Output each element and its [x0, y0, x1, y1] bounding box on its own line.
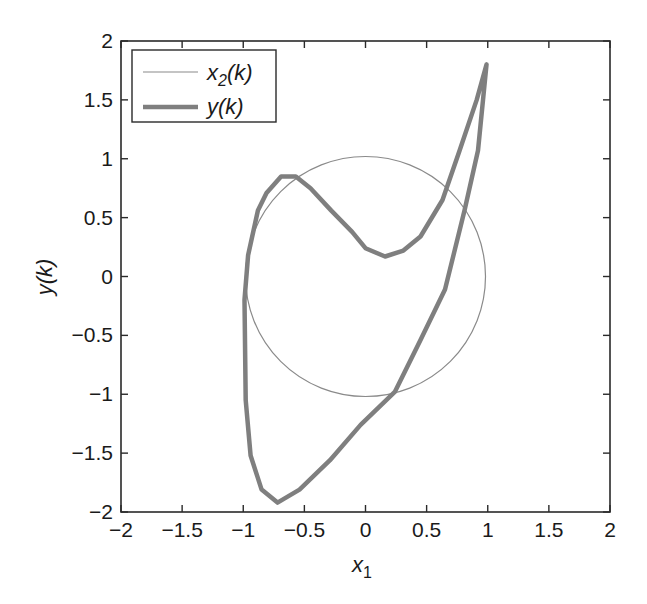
- legend: x2(k) y(k): [132, 50, 276, 122]
- y-tick-label: −1.5: [72, 441, 113, 464]
- x-tick-label: 0: [360, 518, 372, 541]
- x-tick-label: −1.5: [161, 518, 202, 541]
- y-tick-label: 0: [101, 265, 113, 288]
- y-tick-label: −2: [89, 500, 113, 523]
- chart: x2(k) y(k) −2−1.5−1−0.500.511.52 −2−1.5−…: [0, 0, 647, 604]
- y-tick-label: 1: [101, 147, 113, 170]
- x-tick-label: 1.5: [534, 518, 563, 541]
- x-tick-label: −1: [231, 518, 255, 541]
- x-tick-label: −0.5: [284, 518, 325, 541]
- y-tick-label: −0.5: [72, 323, 113, 346]
- x-tick-label: 1: [482, 518, 494, 541]
- y-tick-label: 2: [101, 29, 113, 52]
- y-tick-label: −1: [89, 382, 113, 405]
- y-axis-label: y(k): [32, 259, 57, 298]
- y-tick-label: 0.5: [84, 206, 113, 229]
- x-tick-label: 0.5: [412, 518, 441, 541]
- legend-label-y: y(k): [205, 94, 244, 119]
- legend-box: [132, 50, 276, 122]
- x-tick-labels: −2−1.5−1−0.500.511.52: [109, 518, 616, 541]
- x-axis-label: x1: [351, 552, 372, 581]
- x-tick-label: 2: [604, 518, 616, 541]
- legend-label-x2: x2(k): [206, 60, 253, 89]
- y-tick-labels: −2−1.5−1−0.500.511.52: [72, 29, 113, 523]
- y-tick-label: 1.5: [84, 88, 113, 111]
